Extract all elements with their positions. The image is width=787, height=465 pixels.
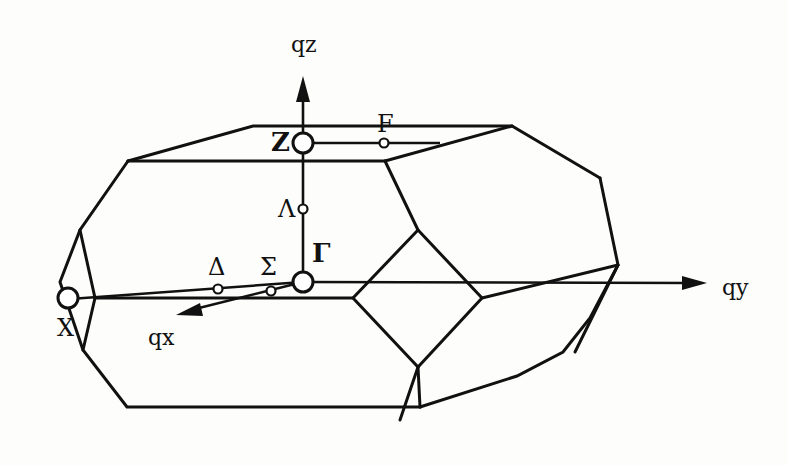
edge-right-lower: [575, 265, 618, 352]
edge-right-front: [400, 367, 418, 420]
point-z: [293, 133, 313, 153]
qz-label: qz: [291, 32, 317, 57]
point-sigma: [267, 287, 276, 296]
edge-front-left-down: [385, 161, 418, 230]
point-labels: Γ Z X F Λ Δ Σ: [57, 110, 394, 342]
label-f: F: [377, 110, 394, 138]
qx-arrowhead-icon: [176, 303, 203, 316]
label-z: Z: [271, 127, 290, 157]
point-gamma: [293, 272, 313, 292]
label-x: X: [57, 314, 74, 342]
qy-label: qy: [722, 275, 749, 300]
qy-arrowhead-icon: [682, 276, 707, 290]
qz-arrowhead-icon: [296, 76, 310, 102]
brillouin-zone-diagram: qz qy qx Γ Z X F Λ Δ Σ: [0, 0, 787, 465]
label-gamma: Γ: [312, 238, 331, 268]
point-delta: [214, 285, 223, 294]
label-lambda: Λ: [277, 195, 296, 223]
edge-right-back: [420, 178, 618, 407]
qy-axis-line: [303, 282, 690, 283]
label-delta: Δ: [208, 253, 225, 281]
point-lambda: [299, 205, 308, 214]
edge-diamond-bottom: [418, 367, 420, 407]
edge-diamond: [353, 230, 482, 367]
edge-left-x-face-1: [80, 230, 95, 298]
qx-label: qx: [148, 325, 175, 350]
edge-left-x-face-2: [83, 298, 95, 350]
point-f: [380, 139, 389, 148]
edge-top-back: [128, 126, 600, 178]
polyhedron-edges: [60, 126, 618, 420]
label-sigma: Σ: [260, 253, 277, 281]
point-x: [58, 288, 78, 308]
